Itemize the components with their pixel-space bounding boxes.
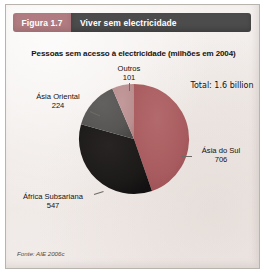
figure-number-label: Figura 1.7 [21,18,62,28]
pie-label-asia-do-sul: Ásia do Sul 706 [192,147,250,165]
figure-header-bar: Figura 1.7 Viver sem electricidade [13,13,251,32]
leader-line-outros [129,83,130,91]
chart-total-annotation: Total: 1.6 billion [184,81,260,90]
leader-line-asia-do-sul [181,156,192,157]
figure-number-badge: Figura 1.7 [13,13,71,32]
pie-label-asia-do-sul-value: 706 [192,156,250,165]
source-note: Fonte: AIE 2006c [17,250,65,257]
pie-chart: Outros 101 Ásia Oriental 224 África Subs… [6,61,260,241]
pie-label-asia-oriental-value: 224 [25,102,91,111]
pie-label-africa-subsariana-value: 547 [12,202,94,211]
figure-title-bar: Viver sem electricidade [71,13,251,32]
pie-label-outros: Outros 101 [106,65,152,83]
chart-subtitle: Pessoas sem acesso à electricidade (milh… [6,49,260,58]
figure-page: Figura 1.7 Viver sem electricidade Pesso… [0,0,266,277]
pie-label-asia-oriental: Ásia Oriental 224 [25,93,91,111]
pie-label-africa-subsariana: África Subsariana 547 [12,193,94,211]
figure-title-text: Viver sem electricidade [80,18,177,28]
pie-label-outros-value: 101 [106,74,152,83]
figure-frame: Figura 1.7 Viver sem electricidade Pesso… [5,4,260,269]
